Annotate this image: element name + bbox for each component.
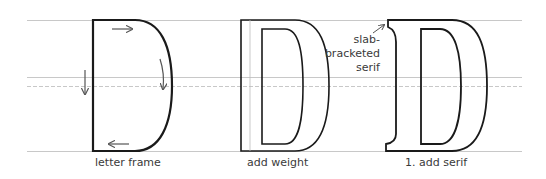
annotation-line-1: slab-	[314, 33, 380, 47]
caption-add-weight: add weight	[247, 156, 308, 169]
annotation-line-3: serif	[314, 61, 380, 75]
annotation-line-2: bracketed	[314, 47, 380, 61]
add-serif-drawing	[386, 20, 487, 151]
guidelines	[27, 21, 522, 152]
caption-add-serif: 1. add serif	[405, 156, 467, 169]
diagram-canvas	[0, 0, 546, 179]
caption-letter-frame: letter frame	[95, 156, 161, 169]
annotation-arrow	[373, 25, 384, 33]
serif-annotation: slab- bracketed serif	[314, 33, 380, 75]
letter-frame-drawing	[93, 20, 172, 151]
